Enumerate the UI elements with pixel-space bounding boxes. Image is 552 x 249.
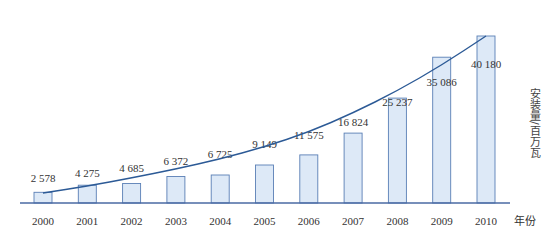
x-tick-label: 2010	[475, 215, 498, 227]
x-tick-label: 2009	[431, 215, 454, 227]
x-tick-label: 2001	[76, 215, 98, 227]
y-axis-label: 安装量/百万瓦	[526, 88, 540, 158]
bar-2001	[78, 185, 96, 203]
x-tick-label: 2008	[386, 215, 409, 227]
bar-2003	[167, 177, 185, 204]
value-label: 35 086	[427, 76, 458, 88]
bar-chart: 2 5784 2754 6856 3726 7259 14911 57516 8…	[0, 0, 552, 249]
bars-group	[34, 36, 495, 203]
value-label: 2 578	[31, 172, 56, 184]
value-label: 4 275	[75, 167, 100, 179]
bar-2005	[256, 165, 274, 203]
x-tick-label: 2000	[32, 215, 55, 227]
bar-2006	[300, 155, 318, 203]
x-tick-label: 2006	[298, 215, 321, 227]
bar-2008	[388, 98, 406, 203]
x-axis-label: 年份	[514, 214, 536, 227]
bar-2004	[211, 175, 229, 203]
bar-2000	[34, 192, 52, 203]
value-label: 6 372	[164, 155, 189, 167]
x-tick-label: 2002	[121, 215, 143, 227]
value-label: 25 237	[382, 96, 413, 108]
bar-2002	[123, 184, 141, 204]
bar-2007	[344, 133, 362, 203]
value-label: 40 180	[471, 58, 502, 70]
x-tick-labels-group: 2000200120022003200420052006200720082009…	[32, 215, 498, 227]
value-label: 4 685	[119, 162, 144, 174]
x-tick-label: 2003	[165, 215, 188, 227]
x-tick-label: 2007	[342, 215, 365, 227]
x-tick-label: 2004	[209, 215, 232, 227]
x-tick-label: 2005	[254, 215, 277, 227]
